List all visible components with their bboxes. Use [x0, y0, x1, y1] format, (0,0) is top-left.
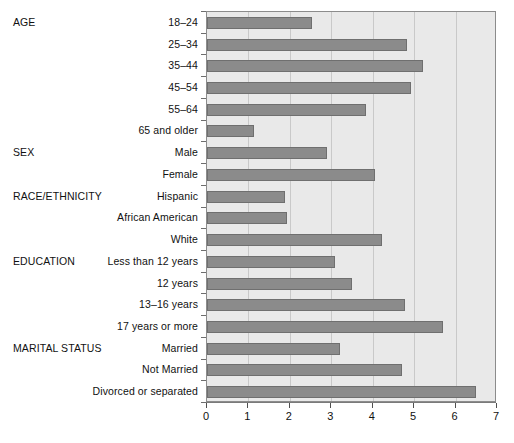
bar	[207, 147, 327, 159]
y-axis-tick	[201, 163, 206, 164]
category-label: 65 and older	[138, 124, 198, 136]
bar	[207, 212, 287, 224]
y-axis-tick	[201, 337, 206, 338]
x-axis-tick-label: 5	[410, 410, 416, 422]
bar	[207, 82, 411, 94]
group-heading: EDUCATION	[13, 255, 75, 267]
y-axis-tick	[201, 272, 206, 273]
y-axis-tick	[201, 228, 206, 229]
category-row: 55–64	[0, 98, 198, 120]
x-axis-tick	[413, 403, 414, 408]
bar	[207, 60, 423, 72]
x-axis-tick	[455, 403, 456, 408]
bar	[207, 191, 285, 203]
category-label: African American	[117, 211, 198, 223]
y-axis-tick	[201, 250, 206, 251]
bar	[207, 256, 335, 268]
bar	[207, 343, 340, 355]
bar	[207, 125, 254, 137]
x-axis-tick	[247, 403, 248, 408]
x-axis-tick-label: 2	[286, 410, 292, 422]
y-axis-tick	[201, 359, 206, 360]
category-label: 45–54	[168, 81, 198, 93]
gridline	[456, 12, 457, 401]
category-label: 55–64	[168, 103, 198, 115]
x-axis-tick	[330, 403, 331, 408]
y-axis-tick	[201, 380, 206, 381]
bar	[207, 17, 312, 29]
category-row: Female	[0, 163, 198, 185]
category-row: Not Married	[0, 359, 198, 381]
category-row: 65 and older	[0, 120, 198, 142]
y-axis-tick	[201, 98, 206, 99]
y-axis-tick	[201, 33, 206, 34]
x-axis-line	[206, 402, 496, 403]
category-label: 13–16 years	[139, 298, 198, 310]
category-label: 35–44	[168, 59, 198, 71]
x-axis-tick-label: 0	[203, 410, 209, 422]
category-row: African American	[0, 207, 198, 229]
group-heading-row: MARITAL STATUS	[0, 337, 198, 359]
bar-chart: 18–2425–3435–4445–5455–6465 and olderMal…	[0, 0, 514, 443]
group-heading-row: EDUCATION	[0, 250, 198, 272]
category-row: 35–44	[0, 54, 198, 76]
y-axis-tick	[201, 402, 206, 403]
y-axis-tick	[201, 76, 206, 77]
x-axis-tick	[372, 403, 373, 408]
y-axis-tick	[201, 293, 206, 294]
y-axis-tick	[201, 141, 206, 142]
y-axis-tick	[201, 207, 206, 208]
y-axis-tick	[201, 11, 206, 12]
bar	[207, 278, 352, 290]
category-label: White	[171, 233, 198, 245]
y-axis-tick	[201, 54, 206, 55]
bar	[207, 386, 476, 398]
bar	[207, 39, 407, 51]
x-axis-tick-label: 7	[493, 410, 499, 422]
y-axis-tick	[201, 120, 206, 121]
category-label: 17 years or more	[117, 320, 198, 332]
category-row: 25–34	[0, 33, 198, 55]
x-axis-tick-label: 1	[244, 410, 250, 422]
category-row: White	[0, 228, 198, 250]
category-row: 12 years	[0, 272, 198, 294]
category-label: 25–34	[168, 38, 198, 50]
x-axis-tick	[206, 403, 207, 408]
bar	[207, 299, 405, 311]
x-axis-tick	[289, 403, 290, 408]
group-heading: RACE/ETHNICITY	[13, 190, 102, 202]
group-heading: SEX	[13, 146, 34, 158]
bar	[207, 104, 366, 116]
bar	[207, 169, 375, 181]
y-axis-tick	[201, 185, 206, 186]
bar	[207, 364, 402, 376]
category-label: Divorced or separated	[93, 385, 198, 397]
category-row: 45–54	[0, 76, 198, 98]
plot-area	[206, 11, 496, 402]
category-label: 12 years	[157, 277, 198, 289]
group-heading: MARITAL STATUS	[13, 342, 102, 354]
category-label: Female	[162, 168, 198, 180]
y-axis-tick	[201, 315, 206, 316]
group-heading-row: SEX	[0, 141, 198, 163]
category-row: 13–16 years	[0, 293, 198, 315]
x-axis-tick-label: 6	[452, 410, 458, 422]
bar	[207, 234, 382, 246]
x-axis-tick	[496, 403, 497, 408]
group-heading: AGE	[13, 16, 35, 28]
x-axis-tick-label: 3	[327, 410, 333, 422]
category-row: Divorced or separated	[0, 380, 198, 402]
bar	[207, 321, 443, 333]
category-label: Not Married	[142, 363, 198, 375]
group-heading-row: AGE	[0, 11, 198, 33]
category-row: 17 years or more	[0, 315, 198, 337]
group-heading-row: RACE/ETHNICITY	[0, 185, 198, 207]
x-axis-tick-label: 4	[369, 410, 375, 422]
